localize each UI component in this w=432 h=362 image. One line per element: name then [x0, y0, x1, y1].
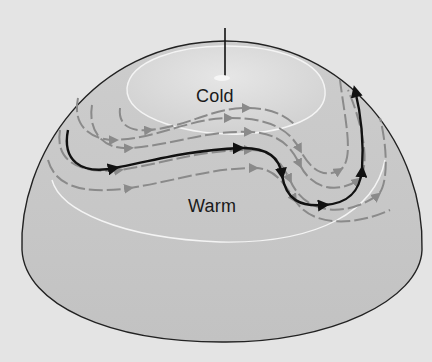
warm-label: Warm	[188, 196, 236, 217]
cold-label: Cold	[196, 86, 234, 107]
jet-stream-diagram: Cold Warm	[0, 0, 432, 362]
hemisphere-graphic	[0, 0, 432, 362]
